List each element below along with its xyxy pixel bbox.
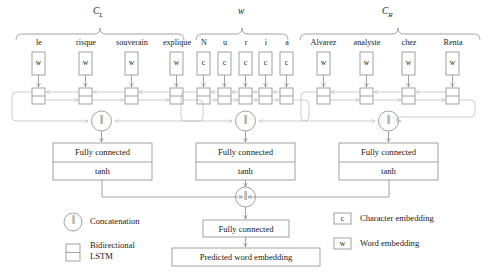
legend-word-embedding-label: Word embedding bbox=[360, 238, 419, 248]
right-lstm-recurrence bbox=[330, 92, 446, 100]
word-embedding-icon: w bbox=[79, 58, 92, 67]
legend-concat-label: Concatenation bbox=[90, 216, 140, 226]
fc-left-activation: tanh bbox=[53, 166, 152, 176]
target-embedding-arrows bbox=[204, 75, 287, 87]
concat-icon: ‖ bbox=[236, 188, 255, 204]
fc-left-to-central-concat bbox=[102, 180, 243, 197]
word-embedding-icon: w bbox=[32, 58, 45, 67]
concat-icon: ‖ bbox=[236, 112, 255, 128]
legend-bilstm-label-line1: Bidirectional bbox=[90, 241, 135, 251]
char-embedding-icon: c bbox=[259, 58, 272, 67]
group-label-left-context: CL bbox=[93, 6, 103, 19]
word-embedding-icon: w bbox=[402, 58, 415, 67]
token-target-1: u bbox=[214, 38, 236, 47]
figure-canvas: CL w CR le risque souverain explique N u… bbox=[0, 0, 496, 277]
legend-word-embedding-icon: w bbox=[334, 239, 351, 248]
token-right-0: Alvarez bbox=[300, 38, 347, 47]
concat-icon: ‖ bbox=[379, 112, 398, 128]
token-target-3: i bbox=[255, 38, 277, 47]
left-lstm-recurrence bbox=[45, 92, 170, 100]
group-label-target-word: w bbox=[238, 6, 244, 16]
group-label-right-context: CR bbox=[382, 6, 393, 19]
legend-concat-icon: ‖ bbox=[64, 213, 83, 228]
right-embedding-arrows bbox=[324, 75, 453, 87]
char-embedding-icon: c bbox=[218, 58, 231, 67]
fc-middle-activation: tanh bbox=[196, 166, 295, 176]
token-left-2: souverain bbox=[105, 38, 159, 47]
fc-right-activation: tanh bbox=[339, 166, 438, 176]
legend-bilstm-symbol bbox=[66, 244, 80, 261]
right-embedding-boxes bbox=[317, 52, 459, 75]
word-embedding-icon: w bbox=[170, 58, 183, 67]
target-lstm-cells bbox=[197, 88, 293, 104]
token-target-0: N bbox=[193, 38, 215, 47]
legend-char-embedding-icon: c bbox=[334, 214, 351, 223]
predicted-word-embedding-label: Predicted word embedding bbox=[172, 252, 320, 262]
char-embedding-icon: c bbox=[280, 58, 293, 67]
word-embedding-icon: w bbox=[360, 58, 373, 67]
fc-middle-title: Fully connected bbox=[196, 147, 295, 157]
token-left-1: risque bbox=[64, 38, 108, 47]
left-embedding-arrows bbox=[39, 75, 177, 87]
token-target-2: r bbox=[235, 38, 257, 47]
token-right-1: analyste bbox=[345, 38, 389, 47]
token-right-2: chez bbox=[392, 38, 426, 47]
legend-char-embedding-label: Character embedding bbox=[360, 213, 434, 223]
fc-right-to-central-concat bbox=[248, 180, 389, 197]
output-fully-connected-label: Fully connected bbox=[203, 224, 289, 234]
fc-left-title: Fully connected bbox=[53, 147, 152, 157]
token-right-3: Renta bbox=[433, 38, 473, 47]
word-embedding-icon: w bbox=[317, 58, 330, 67]
fc-right-title: Fully connected bbox=[339, 147, 438, 157]
left-lstm-cells bbox=[32, 88, 183, 104]
concat-icon: ‖ bbox=[92, 112, 111, 128]
word-embedding-icon: w bbox=[125, 58, 138, 67]
left-embedding-boxes bbox=[32, 52, 183, 75]
legend-bilstm-label-line2: LSTM bbox=[90, 252, 113, 262]
token-left-0: le bbox=[23, 38, 55, 47]
word-embedding-icon: w bbox=[446, 58, 459, 67]
right-lstm-cells bbox=[317, 88, 459, 104]
char-embedding-icon: c bbox=[197, 58, 210, 67]
char-embedding-icon: c bbox=[239, 58, 252, 67]
token-target-4: a bbox=[276, 38, 298, 47]
